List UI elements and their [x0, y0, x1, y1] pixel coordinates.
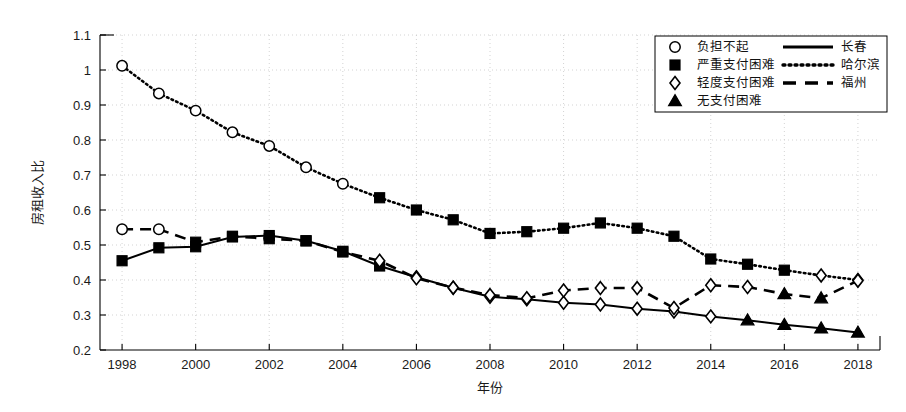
marker-circle — [227, 127, 237, 137]
x-tick-label: 2000 — [181, 357, 210, 372]
marker-square — [485, 228, 495, 238]
marker-square — [117, 256, 127, 266]
marker-square — [669, 231, 679, 241]
marker-square — [448, 215, 458, 225]
legend-label: 福州 — [841, 75, 867, 90]
marker-diamond — [706, 310, 716, 323]
legend: 负担不起严重支付困难轻度支付困难无支付困难长春哈尔滨福州 — [655, 36, 887, 112]
x-tick-label: 2010 — [549, 357, 578, 372]
marker-diamond — [559, 284, 569, 297]
legend-label: 无支付困难 — [697, 94, 762, 108]
marker-square — [154, 243, 164, 253]
marker-diamond — [559, 296, 569, 309]
x-tick-label: 2008 — [476, 357, 505, 372]
marker-square — [522, 227, 532, 237]
marker-square — [227, 231, 237, 241]
marker-square — [301, 236, 311, 246]
series-长春 — [117, 231, 864, 338]
marker-diamond — [595, 298, 605, 311]
marker-circle — [117, 61, 127, 71]
marker-circle — [117, 224, 127, 234]
marker-circle — [154, 88, 164, 98]
x-tick-label: 2016 — [770, 357, 799, 372]
x-tick-label: 1998 — [108, 357, 137, 372]
x-tick-label: 2002 — [255, 357, 284, 372]
chart-container: 0.20.30.40.50.60.70.80.911.1199820002002… — [0, 0, 906, 412]
marker-circle — [154, 224, 164, 234]
marker-square — [595, 218, 605, 228]
y-tick-label: 1 — [84, 63, 91, 78]
y-tick-label: 0.7 — [73, 168, 91, 183]
x-axis-title: 年份 — [477, 380, 503, 395]
marker-square — [338, 247, 348, 257]
legend-label: 哈尔滨 — [841, 57, 880, 72]
marker-square — [411, 205, 421, 215]
y-tick-label: 0.9 — [73, 98, 91, 113]
marker-circle — [301, 162, 311, 172]
x-tick-label: 2018 — [843, 357, 872, 372]
marker-triangle — [778, 288, 791, 299]
y-tick-label: 1.1 — [73, 28, 91, 43]
marker-square — [632, 223, 642, 233]
y-tick-label: 0.2 — [73, 343, 91, 358]
marker-diamond — [522, 292, 532, 305]
y-tick-label: 0.5 — [73, 238, 91, 253]
legend-label: 负担不起 — [697, 40, 749, 54]
marker-diamond — [743, 281, 753, 294]
marker-square — [779, 265, 789, 275]
x-tick-label: 2006 — [402, 357, 431, 372]
marker-circle — [264, 141, 274, 151]
rent-income-ratio-line-chart: 0.20.30.40.50.60.70.80.911.1199820002002… — [0, 0, 906, 412]
y-tick-label: 0.4 — [73, 273, 91, 288]
marker-diamond — [632, 282, 642, 295]
legend-label: 轻度支付困难 — [697, 75, 775, 90]
marker-square — [559, 223, 569, 233]
marker-circle — [670, 42, 680, 52]
marker-square — [264, 234, 274, 244]
legend-label: 严重支付困难 — [697, 57, 775, 72]
y-tick-label: 0.8 — [73, 133, 91, 148]
marker-square — [743, 259, 753, 269]
marker-circle — [338, 179, 348, 189]
x-tick-label: 2012 — [623, 357, 652, 372]
marker-diamond — [411, 272, 421, 285]
marker-diamond — [595, 282, 605, 295]
marker-diamond — [706, 279, 716, 292]
marker-diamond — [853, 274, 863, 287]
marker-diamond — [448, 281, 458, 294]
x-tick-label: 2014 — [696, 357, 725, 372]
legend-label: 长春 — [841, 40, 867, 54]
y-axis-title: 房租收入比 — [30, 160, 45, 225]
marker-square — [670, 60, 680, 70]
marker-square — [706, 254, 716, 264]
marker-diamond — [632, 302, 642, 315]
x-tick-label: 2004 — [328, 357, 357, 372]
y-tick-label: 0.6 — [73, 203, 91, 218]
marker-circle — [190, 105, 200, 115]
marker-square — [191, 237, 201, 247]
y-tick-label: 0.3 — [73, 308, 91, 323]
marker-square — [375, 193, 385, 203]
